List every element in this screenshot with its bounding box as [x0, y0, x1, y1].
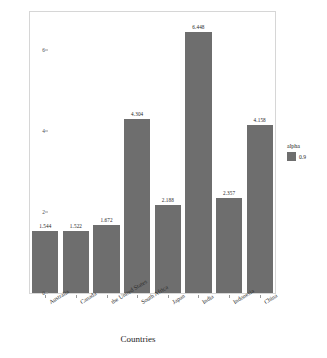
x-tick-mark	[168, 295, 169, 298]
x-tick-label: India	[201, 300, 204, 305]
bar-chart: 1.5441.5221.6724.3042.1886.4482.3574.158…	[0, 0, 327, 358]
x-tick-mark	[107, 295, 108, 298]
legend: alpha 0.9	[287, 143, 327, 161]
legend-swatch	[287, 152, 296, 161]
bar-value-label: 2.357	[223, 190, 235, 196]
bar-the-united-states	[93, 225, 119, 293]
plot-area: 1.5441.5221.6724.3042.1886.4482.3574.158	[30, 12, 275, 293]
x-tick-label: Canada	[79, 300, 82, 305]
y-tick-mark	[45, 293, 48, 294]
bar-rect	[63, 231, 89, 293]
x-tick-mark	[229, 295, 230, 298]
bar-rect	[185, 32, 211, 293]
legend-label: 0.9	[299, 154, 306, 160]
x-tick-mark	[137, 295, 138, 298]
x-tick-label: Japan	[171, 300, 174, 305]
bar-value-label: 1.544	[39, 223, 51, 229]
bar-indonesia	[216, 198, 242, 293]
y-tick-mark	[45, 131, 48, 132]
legend-entries: 0.9	[287, 152, 327, 161]
bar-rect	[247, 125, 273, 293]
y-tick-label: 6	[42, 47, 45, 53]
bar-value-label: 1.672	[100, 217, 112, 223]
x-axis-title: Countries	[0, 334, 276, 344]
bar-value-label: 4.158	[254, 117, 266, 123]
bar-value-label: 2.188	[162, 197, 174, 203]
bar-rect	[155, 205, 181, 293]
bar-canada	[63, 231, 89, 293]
bar-rect	[124, 119, 150, 293]
x-tick-label: Indonesia	[232, 300, 235, 305]
x-tick-mark	[76, 295, 77, 298]
bar-china	[247, 125, 273, 293]
bar-rect	[216, 198, 242, 293]
x-tick-label: the United States	[110, 300, 113, 305]
bar-value-label: 6.448	[192, 24, 204, 30]
plot-panel: 1.5441.5221.6724.3042.1886.4482.3574.158	[29, 11, 276, 294]
bar-value-label: 1.522	[70, 223, 82, 229]
x-tick-label: China	[263, 300, 266, 305]
bar-south-africa	[124, 119, 150, 293]
x-tick-label: Australia	[48, 300, 51, 305]
y-tick-label: 2	[42, 209, 45, 215]
x-tick-label: South Africa	[140, 300, 143, 305]
bar-india	[185, 32, 211, 293]
x-tick-mark	[260, 295, 261, 298]
legend-entry: 0.9	[287, 152, 327, 161]
bar-rect	[93, 225, 119, 293]
bar-australia	[32, 231, 58, 293]
y-tick-mark	[45, 212, 48, 213]
bar-value-label: 4.304	[131, 111, 143, 117]
x-tick-mark	[198, 295, 199, 298]
y-tick-label: 4	[42, 128, 45, 134]
chart-title-strip	[0, 0, 327, 9]
y-tick-mark	[45, 50, 48, 51]
bar-japan	[155, 205, 181, 293]
x-tick-mark	[45, 295, 46, 298]
legend-title: alpha	[287, 143, 327, 149]
bar-rect	[32, 231, 58, 293]
